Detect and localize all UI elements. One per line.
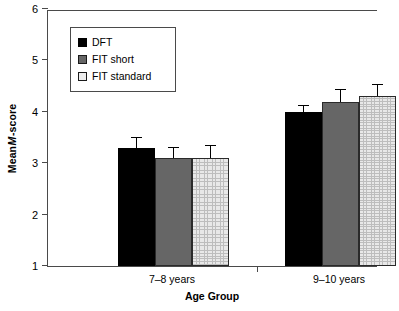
y-tick-5: 5 [42,59,48,60]
y-tick-2: 2 [42,214,48,215]
bar-fit-short-group-2 [322,102,359,266]
y-tick-label-6: 6 [32,4,38,15]
bar-dft-group-2 [285,112,322,266]
error-cap-fit-short-group-1 [168,147,179,148]
bar-fit-short-group-1 [155,158,192,266]
legend-swatch-dft [78,38,87,47]
error-bar-dft-group-2 [303,106,304,112]
legend-label-dft: DFT [92,37,112,48]
y-axis-title: Mean M-score [4,10,20,267]
error-bar-dft-group-1 [136,138,137,148]
error-bar-fit-standard-group-1 [210,146,211,158]
error-cap-dft-group-2 [298,105,309,106]
chart-legend: DFT FIT short FIT standard [70,27,176,92]
error-cap-fit-short-group-2 [335,89,346,90]
y-tick-label-5: 5 [32,55,38,66]
error-cap-fit-standard-group-2 [372,84,383,85]
y-tick-1: 1 [42,265,48,266]
error-cap-dft-group-1 [131,137,142,138]
legend-item-fit-short: FIT short [78,51,167,68]
x-tick-center [257,266,258,272]
y-tick-label-3: 3 [32,158,38,169]
y-tick-label-2: 2 [32,209,38,220]
legend-swatch-fit-standard [78,72,87,81]
error-cap-fit-standard-group-1 [205,145,216,146]
y-tick-label-1: 1 [32,261,38,272]
y-axis-title-italic: M [6,136,18,146]
y-tick-4: 4 [42,111,48,112]
error-bar-fit-short-group-2 [340,90,341,101]
legend-swatch-fit-short [78,55,87,64]
x-group-label-1: 7–8 years [112,273,232,285]
y-axis-title-suffix: -score [6,104,18,136]
error-bar-fit-standard-group-2 [377,85,378,97]
y-tick-6: 6 [42,8,48,9]
legend-label-fit-standard: FIT standard [92,71,151,82]
y-tick-label-4: 4 [32,106,38,117]
x-axis-title: Age Group [47,290,377,302]
bar-dft-group-1 [118,148,155,266]
error-bar-fit-short-group-1 [173,148,174,158]
bar-fit-standard-group-2 [359,96,396,266]
y-axis-title-prefix: Mean [6,146,18,173]
legend-label-fit-short: FIT short [92,54,134,65]
bar-fit-standard-group-1 [192,158,229,266]
x-group-label-2: 9–10 years [279,273,399,285]
legend-item-dft: DFT [78,34,167,51]
legend-item-fit-standard: FIT standard [78,68,167,85]
y-tick-3: 3 [42,162,48,163]
